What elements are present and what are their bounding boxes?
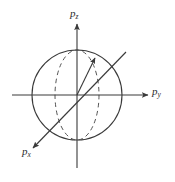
axis-label-px-symbol: p <box>22 145 28 157</box>
axis-label-py-subscript: y <box>158 90 161 99</box>
axis-px-line <box>33 52 126 148</box>
axis-label-pz-subscript: z <box>76 12 79 21</box>
axis-label-pz: pz <box>70 8 78 19</box>
axis-label-py: py <box>152 86 161 97</box>
axis-label-py-symbol: p <box>152 85 158 97</box>
polarization-vector-arrow <box>77 58 95 95</box>
axis-label-px-subscript: x <box>28 150 31 159</box>
axis-label-px: px <box>22 146 31 157</box>
bloch-sphere-figure: pz py px <box>0 0 175 182</box>
axis-label-pz-symbol: p <box>70 7 76 19</box>
